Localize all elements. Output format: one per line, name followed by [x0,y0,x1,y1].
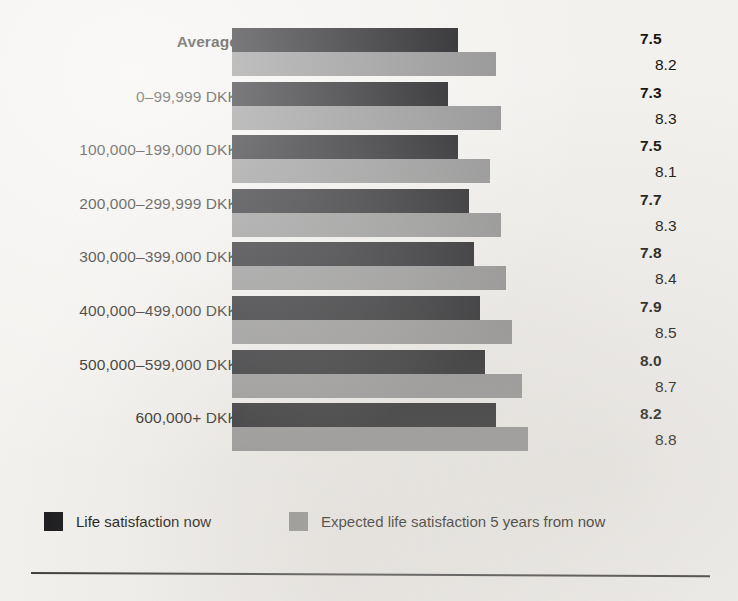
chart-legend: Life satisfaction now Expected life sati… [0,512,738,552]
legend-label-now: Life satisfaction now [76,513,211,530]
bar-row: 100,000–199,000 DKK7.58.1 [0,135,738,187]
value-label-now: 7.5 [640,30,662,48]
category-label: 100,000–199,000 DKK [0,141,238,159]
value-label-future: 8.8 [655,431,677,449]
legend-swatch-future-icon [289,512,308,531]
category-label: 500,000–599,000 DKK [0,356,238,374]
legend-item-expected-life-satisfaction: Expected life satisfaction 5 years from … [289,512,605,531]
bar-life-satisfaction-now [232,350,485,374]
bar-row: Average7.58.2 [0,28,738,80]
bar-life-satisfaction-now [232,82,448,106]
bar-life-satisfaction-now [232,28,458,52]
value-label-future: 8.3 [655,110,677,128]
bar-expected-life-satisfaction [232,213,501,237]
bar-expected-life-satisfaction [232,159,490,183]
horizontal-bar-chart: Average7.58.20–99,999 DKK7.38.3100,000–1… [0,0,738,601]
bar-expected-life-satisfaction [232,427,528,451]
bar-row: 400,000–499,000 DKK7.98.5 [0,296,738,348]
bar-life-satisfaction-now [232,403,496,427]
category-label: 0–99,999 DKK [0,88,238,106]
bar-expected-life-satisfaction [232,52,496,76]
category-label: 300,000–399,000 DKK [0,248,238,266]
value-label-future: 8.4 [655,270,677,288]
bar-life-satisfaction-now [232,189,469,213]
value-label-future: 8.2 [655,56,677,74]
category-label: Average [0,33,238,51]
legend-swatch-now-icon [44,512,63,531]
value-label-now: 8.0 [640,352,662,370]
footer-divider-rule [31,572,710,577]
value-label-future: 8.7 [655,378,677,396]
value-label-now: 7.8 [640,244,662,262]
value-label-now: 7.9 [640,298,662,316]
bar-expected-life-satisfaction [232,266,506,290]
bar-expected-life-satisfaction [232,106,501,130]
value-label-future: 8.3 [655,217,677,235]
bar-row: 200,000–299,999 DKK7.78.3 [0,189,738,241]
value-label-now: 7.7 [640,191,662,209]
value-label-future: 8.1 [655,163,677,181]
bar-expected-life-satisfaction [232,320,512,344]
value-label-now: 7.3 [640,84,662,102]
category-label: 600,000+ DKK [0,409,238,427]
category-label: 400,000–499,000 DKK [0,302,238,320]
bar-row: 600,000+ DKK8.28.8 [0,403,738,455]
value-label-future: 8.5 [655,324,677,342]
legend-item-life-satisfaction-now: Life satisfaction now [44,512,211,531]
legend-label-future: Expected life satisfaction 5 years from … [321,513,605,530]
bar-row: 500,000–599,000 DKK8.08.7 [0,350,738,402]
bar-expected-life-satisfaction [232,374,522,398]
bar-life-satisfaction-now [232,242,474,266]
bar-row: 300,000–399,000 DKK7.88.4 [0,242,738,294]
bar-row: 0–99,999 DKK7.38.3 [0,82,738,134]
value-label-now: 8.2 [640,405,662,423]
category-label: 200,000–299,999 DKK [0,195,238,213]
value-label-now: 7.5 [640,137,662,155]
bar-life-satisfaction-now [232,135,458,159]
bar-life-satisfaction-now [232,296,480,320]
